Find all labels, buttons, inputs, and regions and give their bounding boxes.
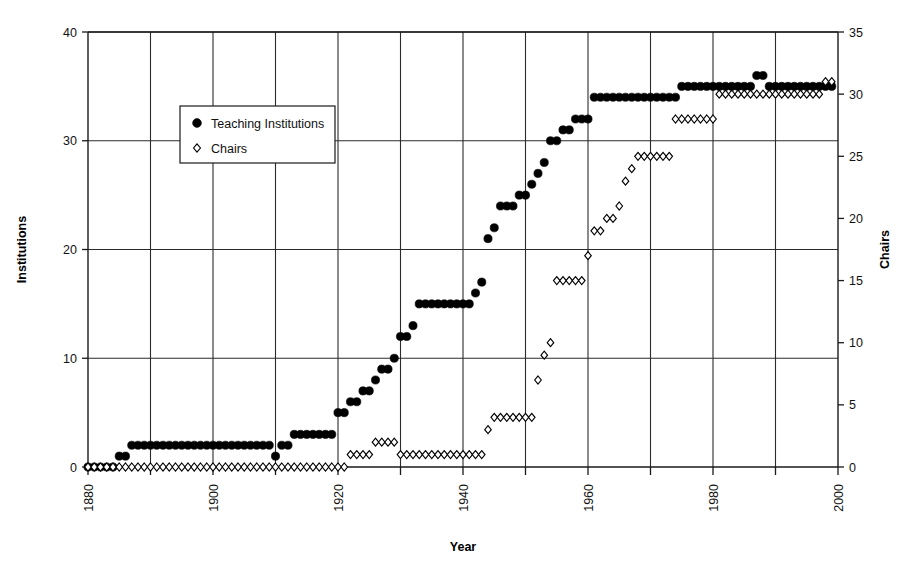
left-axis-tick-label: 10 [63,352,77,366]
x-axis-tick-label: 1900 [207,484,221,512]
data-point-institution [403,332,411,340]
right-axis-tick-label: 20 [849,212,863,226]
data-point-institution [353,398,361,406]
data-point-institution [121,452,129,460]
data-point-chair [816,90,823,98]
data-point-institution [509,202,517,210]
data-point-institution [284,441,292,449]
x-axis-tick-label: 1880 [82,484,96,512]
data-point-chair [535,376,542,384]
chart-container: 0102030400510152025303518801900192019401… [0,0,916,571]
data-point-institution [565,126,573,134]
data-point-institution [471,289,479,297]
axis-titles-layer: InstitutionsChairsYear [15,216,892,554]
data-point-chair [616,202,623,210]
right-axis-tick-label: 10 [849,336,863,350]
data-point-institution [584,115,592,123]
left-axis-tick-label: 30 [63,134,77,148]
left-axis-title: Institutions [15,216,29,283]
legend-label-teaching-institutions: Teaching Institutions [211,117,324,131]
data-point-institution [271,452,279,460]
data-point-chair [585,252,592,260]
x-axis-tick-label: 1980 [707,484,721,512]
data-point-chair [622,177,629,185]
left-axis-tick-label: 20 [63,243,77,257]
data-point-chair [710,115,717,123]
x-axis-tick-label: 1960 [582,484,596,512]
data-point-institution [409,322,417,330]
x-axis-tick-label: 2000 [832,484,846,512]
data-point-institution [328,430,336,438]
data-point-institution [540,158,548,166]
data-point-institution [465,300,473,308]
data-point-chair [478,451,485,459]
data-point-institution [340,409,348,417]
left-axis-tick-label: 40 [63,26,77,40]
left-axis-tick-label: 0 [70,461,77,475]
data-point-institution [371,376,379,384]
bottom-axis-title: Year [450,540,477,554]
right-axis-tick-label: 15 [849,274,863,288]
legend-layer[interactable]: Teaching InstitutionsChairs [180,106,335,163]
data-point-chair [547,339,554,347]
data-point-chair [528,413,535,421]
data-point-institution [671,93,679,101]
x-axis-tick-label: 1920 [332,484,346,512]
data-point-chair [610,214,617,222]
data-point-chair [391,438,398,446]
data-point-institution [384,365,392,373]
data-point-chair [485,426,492,434]
data-point-institution [478,278,486,286]
data-point-institution [265,441,273,449]
data-point-chair [597,227,604,235]
data-point-chair [628,165,635,173]
data-point-institution [484,235,492,243]
data-point-institution [365,387,373,395]
data-point-institution [759,71,767,79]
right-axis-title: Chairs [878,230,892,269]
data-point-chair [341,463,348,471]
scatter-chart: 0102030400510152025303518801900192019401… [0,0,916,571]
legend-marker-teaching-institutions [193,119,202,128]
right-axis-tick-label: 5 [849,398,856,412]
data-point-chair [666,152,673,160]
data-point-institution [521,191,529,199]
data-point-institution [490,224,498,232]
right-axis-tick-label: 25 [849,150,863,164]
x-axis-tick-label: 1940 [457,484,471,512]
right-axis-tick-label: 35 [849,26,863,40]
right-axis-tick-label: 0 [849,461,856,475]
data-point-institution [534,169,542,177]
data-point-institution [553,137,561,145]
data-point-institution [528,180,536,188]
data-point-chair [366,451,373,459]
data-point-institution [390,354,398,362]
right-axis-tick-label: 30 [849,88,863,102]
data-point-chair [578,277,585,285]
legend-box [180,106,335,163]
legend-label-chairs: Chairs [211,142,247,156]
